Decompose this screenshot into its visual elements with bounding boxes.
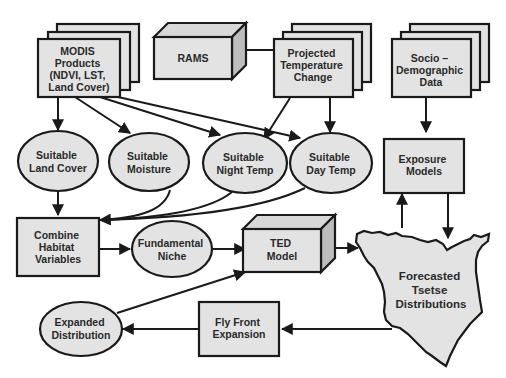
suitable-night-temp-label: Suitable Night Temp — [217, 151, 274, 176]
fly-front-expansion-label: Fly Front Expansion — [212, 316, 265, 340]
rams-label: RAMS — [178, 52, 209, 64]
exposure-models-node[interactable]: Exposure Models — [384, 139, 464, 193]
suitable-moisture-label: Suitable Moisture — [127, 150, 171, 175]
ted-model-node[interactable]: TED Model — [243, 215, 335, 272]
suitable-night-temp-node[interactable]: Suitable Night Temp — [203, 133, 287, 193]
socio-demographic-node[interactable]: Socio – Demographic Data — [392, 24, 489, 97]
expanded-distribution-label: Expanded Distribution — [52, 316, 111, 341]
combine-habitat-variables-node[interactable]: Combine Habitat Variables — [17, 218, 99, 276]
tsetse-workflow-diagram: MODIS Products (NDVI, LST, Land Cover) R… — [0, 0, 506, 378]
edge-modis-moisture — [75, 97, 130, 133]
expanded-distribution-node[interactable]: Expanded Distribution — [40, 302, 122, 356]
fly-front-expansion-node[interactable]: Fly Front Expansion — [199, 302, 279, 356]
suitable-land-cover-label: Suitable Land Cover — [29, 149, 87, 174]
rams-node[interactable]: RAMS — [154, 23, 246, 79]
suitable-moisture-node[interactable]: Suitable Moisture — [109, 133, 189, 191]
suitable-day-temp-node[interactable]: Suitable Day Temp — [290, 133, 372, 193]
projected-temperature-node[interactable]: Projected Temperature Change — [274, 24, 371, 97]
combine-habitat-variables-label: Combine Habitat Variables — [34, 229, 82, 265]
fundamental-niche-node[interactable]: Fundamental Niche — [132, 221, 212, 277]
suitable-day-temp-label: Suitable Day Temp — [306, 151, 355, 176]
ted-model-label: TED Model — [267, 237, 297, 262]
modis-products-node[interactable]: MODIS Products (NDVI, LST, Land Cover) — [38, 24, 139, 97]
exposure-models-label: Exposure Models — [399, 153, 450, 177]
forecasted-tsetse-distributions-node[interactable]: Forecasted Tsetse Distributions — [356, 231, 489, 366]
suitable-land-cover-node[interactable]: Suitable Land Cover — [18, 131, 98, 191]
